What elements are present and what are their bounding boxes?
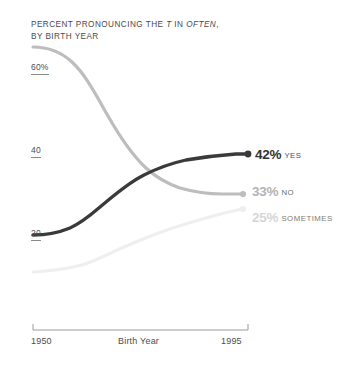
series-label-sometimes: 25%SOMETIMES <box>252 209 333 225</box>
series-name-no: NO <box>281 188 294 197</box>
series-label-yes: 42%YES <box>255 146 302 162</box>
y-axis-tick-60: 60% <box>31 62 49 75</box>
endpoint-dot-yes <box>245 151 252 158</box>
chart-plot-area <box>0 0 362 369</box>
y-axis-tick-40: 40 <box>31 145 41 158</box>
series-name-sometimes: SOMETIMES <box>281 214 332 223</box>
x-axis-title: Birth Year <box>118 336 159 346</box>
series-value-no: 33% <box>252 184 278 199</box>
x-axis-line <box>33 324 248 330</box>
endpoint-dot-sometimes <box>240 206 246 212</box>
series-value-sometimes: 25% <box>252 210 278 225</box>
series-value-yes: 42% <box>255 147 281 162</box>
x-axis-tick-1995: 1995 <box>221 336 242 346</box>
series-label-no: 33%NO <box>252 183 294 199</box>
series-name-yes: YES <box>284 151 301 160</box>
series-line-no <box>33 47 242 194</box>
endpoint-dot-no <box>240 191 246 197</box>
y-axis-tick-20: 20 <box>31 228 41 241</box>
x-axis-tick-1950: 1950 <box>31 336 52 346</box>
chart-figure: Percent pronouncing the T in Often,by bi… <box>0 0 362 369</box>
series-line-sometimes <box>33 209 242 272</box>
